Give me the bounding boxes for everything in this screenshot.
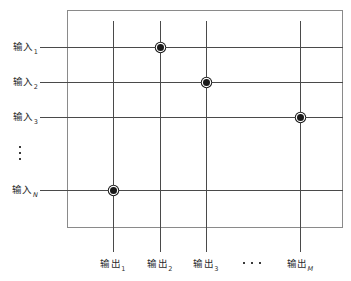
input-label-2-subscript: 2 bbox=[33, 83, 38, 91]
output-label-1-subscript: 1 bbox=[121, 265, 126, 273]
input-label-N-subscript: N bbox=[32, 191, 38, 199]
output-label-1-base: 输出 bbox=[100, 258, 120, 269]
ellipsis-dot bbox=[243, 262, 245, 264]
input-label-2-base: 输入 bbox=[13, 76, 33, 87]
output-label-M: 输出M bbox=[287, 256, 314, 272]
input-label-3: 输入3 bbox=[13, 109, 38, 125]
output-line-2 bbox=[160, 21, 161, 252]
ellipsis-dot bbox=[19, 146, 21, 148]
output-label-3: 输出3 bbox=[193, 256, 218, 272]
output-label-2-subscript: 2 bbox=[168, 265, 173, 273]
input-label-3-subscript: 3 bbox=[33, 118, 38, 126]
output-label-2: 输出2 bbox=[147, 256, 172, 272]
output-label-3-base: 输出 bbox=[193, 258, 213, 269]
input-line-2 bbox=[40, 82, 343, 83]
output-line-3 bbox=[206, 21, 207, 252]
crossbar-switch-diagram: 输入1 输入2 输入3 输入N 输出1 输出2 输出3 输出M bbox=[0, 0, 351, 281]
output-line-M bbox=[300, 21, 301, 252]
input-line-N bbox=[40, 190, 343, 191]
output-label-2-base: 输出 bbox=[147, 258, 167, 269]
output-label-3-subscript: 3 bbox=[214, 265, 219, 273]
input-label-2: 输入2 bbox=[13, 74, 38, 90]
output-label-1: 输出1 bbox=[100, 256, 125, 272]
input-label-1-base: 输入 bbox=[13, 41, 33, 52]
crosspoint-inN-out1[interactable] bbox=[110, 187, 117, 194]
input-label-N: 输入N bbox=[12, 182, 38, 198]
input-rows-ellipsis-icon bbox=[19, 146, 21, 160]
input-label-1: 输入1 bbox=[13, 39, 38, 55]
crosspoint-in2-out3[interactable] bbox=[203, 79, 210, 86]
input-label-1-subscript: 1 bbox=[33, 48, 38, 56]
input-label-3-base: 输入 bbox=[13, 111, 33, 122]
output-label-M-subscript: M bbox=[307, 265, 313, 273]
ellipsis-dot bbox=[251, 262, 253, 264]
output-line-1 bbox=[113, 21, 114, 252]
ellipsis-dot bbox=[19, 152, 21, 154]
ellipsis-dot bbox=[259, 262, 261, 264]
crosspoint-in3-outM[interactable] bbox=[297, 114, 304, 121]
input-line-1 bbox=[40, 47, 343, 48]
ellipsis-dot bbox=[19, 158, 21, 160]
crosspoint-in1-out2[interactable] bbox=[157, 44, 164, 51]
output-label-M-base: 输出 bbox=[287, 258, 307, 269]
output-columns-ellipsis-icon bbox=[243, 262, 261, 264]
input-label-N-base: 输入 bbox=[12, 184, 32, 195]
